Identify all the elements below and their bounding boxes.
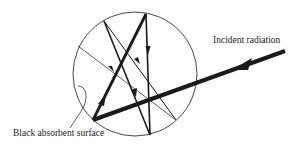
reflection-3 xyxy=(104,21,150,135)
reflection-1-arrow xyxy=(98,94,106,106)
absorbent-surface-curve xyxy=(70,86,86,128)
sphere-outline xyxy=(73,12,197,136)
reflection-2-arrow xyxy=(146,46,151,55)
reflection-2 xyxy=(146,14,150,135)
integrating-sphere-diagram xyxy=(0,0,301,148)
incident-radiation-label: Incident radiation xyxy=(213,35,280,45)
black-absorbent-surface-label: Black absorbent surface xyxy=(13,128,104,138)
